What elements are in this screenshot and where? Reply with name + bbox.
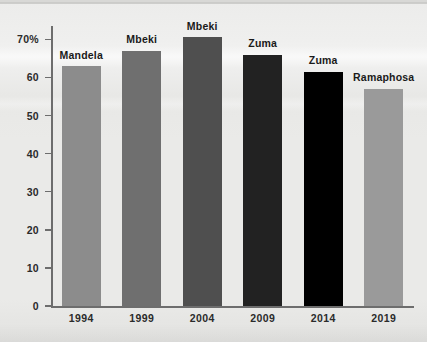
bar-value-label: Ramaphosa: [353, 72, 414, 83]
bar-group[interactable]: Ramaphosa: [364, 26, 403, 306]
x-axis-line: [51, 306, 414, 308]
bar-value-label: Zuma: [248, 38, 277, 49]
bar-group[interactable]: Zuma: [304, 26, 343, 306]
y-tick-label: 0: [0, 301, 39, 312]
y-tick-label: 10: [0, 263, 39, 274]
bar[interactable]: [62, 66, 101, 306]
bottom-shadow-band: [0, 324, 427, 342]
bar-group[interactable]: Mbeki: [122, 26, 161, 306]
bar[interactable]: [122, 51, 161, 306]
bar[interactable]: [364, 89, 403, 306]
bar-value-label: Mbeki: [126, 34, 157, 45]
y-tick-label: 50: [0, 111, 39, 122]
bar[interactable]: [183, 37, 222, 306]
bar-group[interactable]: Zuma: [243, 26, 282, 306]
plot-area: MandelaMbekiMbekiZumaZumaRamaphosa: [51, 26, 414, 306]
bar[interactable]: [304, 72, 343, 306]
bar-value-label: Mandela: [60, 50, 103, 61]
bar-group[interactable]: Mandela: [62, 26, 101, 306]
bar-group[interactable]: Mbeki: [183, 26, 222, 306]
y-tick-label: 60: [0, 72, 39, 83]
top-border-line: [0, 2, 427, 4]
bar-chart: 70%6050403020100 MandelaMbekiMbekiZumaZu…: [0, 0, 427, 342]
y-tick-label: 30: [0, 187, 39, 198]
y-tick-label: 40: [0, 149, 39, 160]
bar-value-label: Zuma: [309, 55, 338, 66]
bar-value-label: Mbeki: [187, 21, 218, 32]
x-axis-label: 2019: [344, 313, 424, 324]
y-tick-label: 20: [0, 225, 39, 236]
y-tick-label: 70%: [0, 34, 39, 45]
bar[interactable]: [243, 55, 282, 306]
